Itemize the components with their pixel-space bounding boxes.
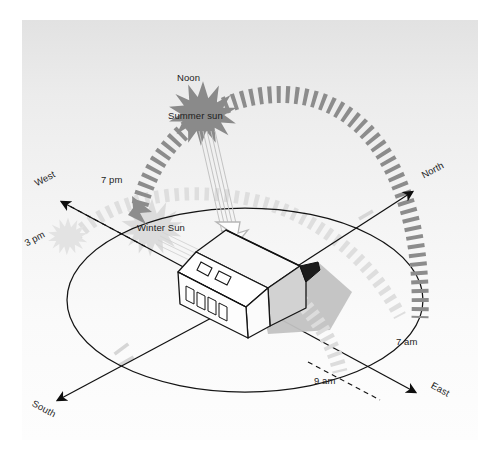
label-seven-pm: 7 pm bbox=[101, 174, 123, 185]
summer-sun-rays bbox=[199, 131, 238, 232]
label-nine-am: 9 am bbox=[314, 375, 336, 386]
label-summer-sun: Summer sun bbox=[168, 110, 223, 121]
label-noon: Noon bbox=[177, 72, 200, 83]
label-winter-sun: Winter Sun bbox=[137, 222, 185, 233]
sun-path-illustration bbox=[0, 0, 501, 456]
label-seven-am: 7 am bbox=[396, 336, 418, 347]
diagram-stage: Noon Summer sun Winter Sun 7 pm 3 pm 7 a… bbox=[0, 0, 501, 456]
